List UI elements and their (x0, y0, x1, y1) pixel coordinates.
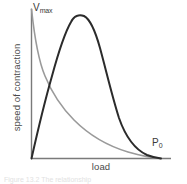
p0-symbol: P (152, 137, 159, 148)
p0-subscript: 0 (159, 142, 163, 149)
figure-caption: Figure 13.2 The relationship (4, 176, 184, 184)
vmax-subscript: max (40, 7, 53, 14)
x-axis-label: load (31, 161, 171, 172)
velocity-curve-line (32, 9, 162, 159)
vmax-label: Vmax (33, 2, 52, 13)
vmax-symbol: V (33, 2, 40, 13)
p0-label: P0 (152, 137, 162, 148)
y-axis-label: speed of contraction (11, 33, 22, 143)
chart-canvas (0, 0, 187, 184)
axes-group (31, 9, 171, 159)
figure-container: speed of contraction load Vmax P0 Figure… (0, 0, 187, 184)
